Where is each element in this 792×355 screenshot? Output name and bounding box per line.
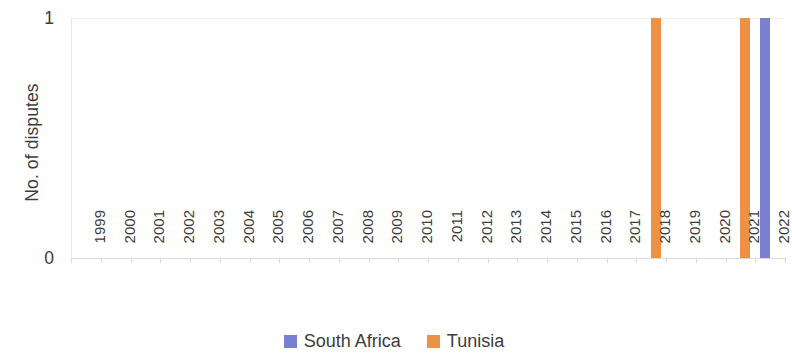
y-axis-tick-label-max: 1 [30, 10, 54, 28]
x-axis-tick-label: 2018 [657, 210, 672, 266]
x-axis-tick-label: 2021 [746, 210, 761, 266]
x-axis-tick-label: 2010 [419, 210, 434, 266]
x-axis-tick-label: 2001 [151, 210, 166, 266]
gridline-1 [71, 18, 785, 19]
x-axis-tick-label: 2014 [538, 210, 553, 266]
y-axis-title: No. of disputes [22, 33, 43, 253]
legend-item-tunisia[interactable]: Tunisia [427, 332, 504, 350]
x-axis-tick-label: 2015 [568, 210, 583, 266]
x-axis-tick-label: 2000 [122, 210, 137, 266]
x-axis-tick-label: 2009 [389, 210, 404, 266]
x-axis-tick-label: 2008 [360, 210, 375, 266]
legend-swatch-icon [427, 335, 440, 348]
x-axis-tick [71, 258, 72, 263]
x-axis-tick-label: 2003 [211, 210, 226, 266]
x-axis-tick-label: 2022 [776, 210, 791, 266]
x-axis-tick-label: 2019 [687, 210, 702, 266]
x-axis-tick-label: 1999 [92, 210, 107, 266]
x-axis-tick-label: 2007 [330, 210, 345, 266]
x-axis-tick-label: 2017 [627, 210, 642, 266]
x-axis-tick-label: 2011 [449, 210, 464, 266]
legend-swatch-icon [284, 335, 297, 348]
x-axis-tick-label: 2002 [181, 210, 196, 266]
legend-item-south-africa[interactable]: South Africa [284, 332, 401, 350]
x-axis-tick-label: 2020 [717, 210, 732, 266]
legend-label: South Africa [304, 332, 401, 350]
x-axis-tick-label: 2005 [270, 210, 285, 266]
x-axis-tick-label: 2013 [508, 210, 523, 266]
legend-label: Tunisia [447, 332, 504, 350]
y-axis-tick-label-min: 0 [30, 250, 54, 268]
x-axis-tick-label: 2012 [479, 210, 494, 266]
chart-legend: South AfricaTunisia [0, 332, 788, 350]
x-axis-tick-label: 2006 [300, 210, 315, 266]
x-axis-tick-label: 2016 [598, 210, 613, 266]
x-axis-tick-label: 2004 [241, 210, 256, 266]
